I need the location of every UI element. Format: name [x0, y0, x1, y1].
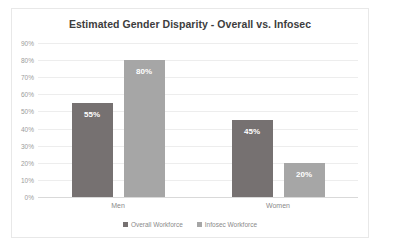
y-axis-tick-label: 70%: [21, 74, 34, 81]
y-axis-tick-label: 30%: [21, 142, 34, 149]
gridline: [38, 94, 358, 95]
bar-men-infosec-workforce: 80%: [124, 60, 165, 197]
chart-container: Estimated Gender Disparity - Overall vs.…: [11, 8, 369, 238]
bar-value-label: 55%: [72, 110, 113, 119]
legend-item-label: Infosec Workforce: [205, 221, 257, 228]
legend-item-infosec-workforce[interactable]: Infosec Workforce: [197, 221, 257, 228]
plot-area: 0%10%20%30%40%50%60%70%80%90%55%80%Men45…: [38, 43, 358, 197]
y-axis-tick-label: 20%: [21, 159, 34, 166]
y-axis-tick-label: 50%: [21, 108, 34, 115]
gridline: [38, 60, 358, 61]
gridline: [38, 43, 358, 44]
y-axis-tick-label: 60%: [21, 91, 34, 98]
bar-value-label: 20%: [284, 170, 325, 179]
x-axis-category-label: Men: [111, 202, 125, 209]
legend-swatch-icon: [123, 222, 128, 227]
y-axis-tick-label: 10%: [21, 176, 34, 183]
y-axis-tick-label: 40%: [21, 125, 34, 132]
y-axis-tick-label: 0%: [25, 194, 34, 201]
axis-baseline: [38, 197, 358, 198]
legend-item-overall-workforce[interactable]: Overall Workforce: [123, 221, 183, 228]
bar-value-label: 80%: [124, 67, 165, 76]
legend-item-label: Overall Workforce: [131, 221, 183, 228]
y-axis-tick-label: 80%: [21, 57, 34, 64]
y-axis-tick-label: 90%: [21, 40, 34, 47]
chart-legend: Overall WorkforceInfosec Workforce: [12, 221, 368, 228]
gridline: [38, 77, 358, 78]
bar-women-infosec-workforce: 20%: [284, 163, 325, 197]
bar-value-label: 45%: [232, 127, 273, 136]
chart-title: Estimated Gender Disparity - Overall vs.…: [12, 18, 368, 30]
bar-women-overall-workforce: 45%: [232, 120, 273, 197]
x-axis-category-label: Women: [266, 202, 290, 209]
legend-swatch-icon: [197, 222, 202, 227]
bar-men-overall-workforce: 55%: [72, 103, 113, 197]
